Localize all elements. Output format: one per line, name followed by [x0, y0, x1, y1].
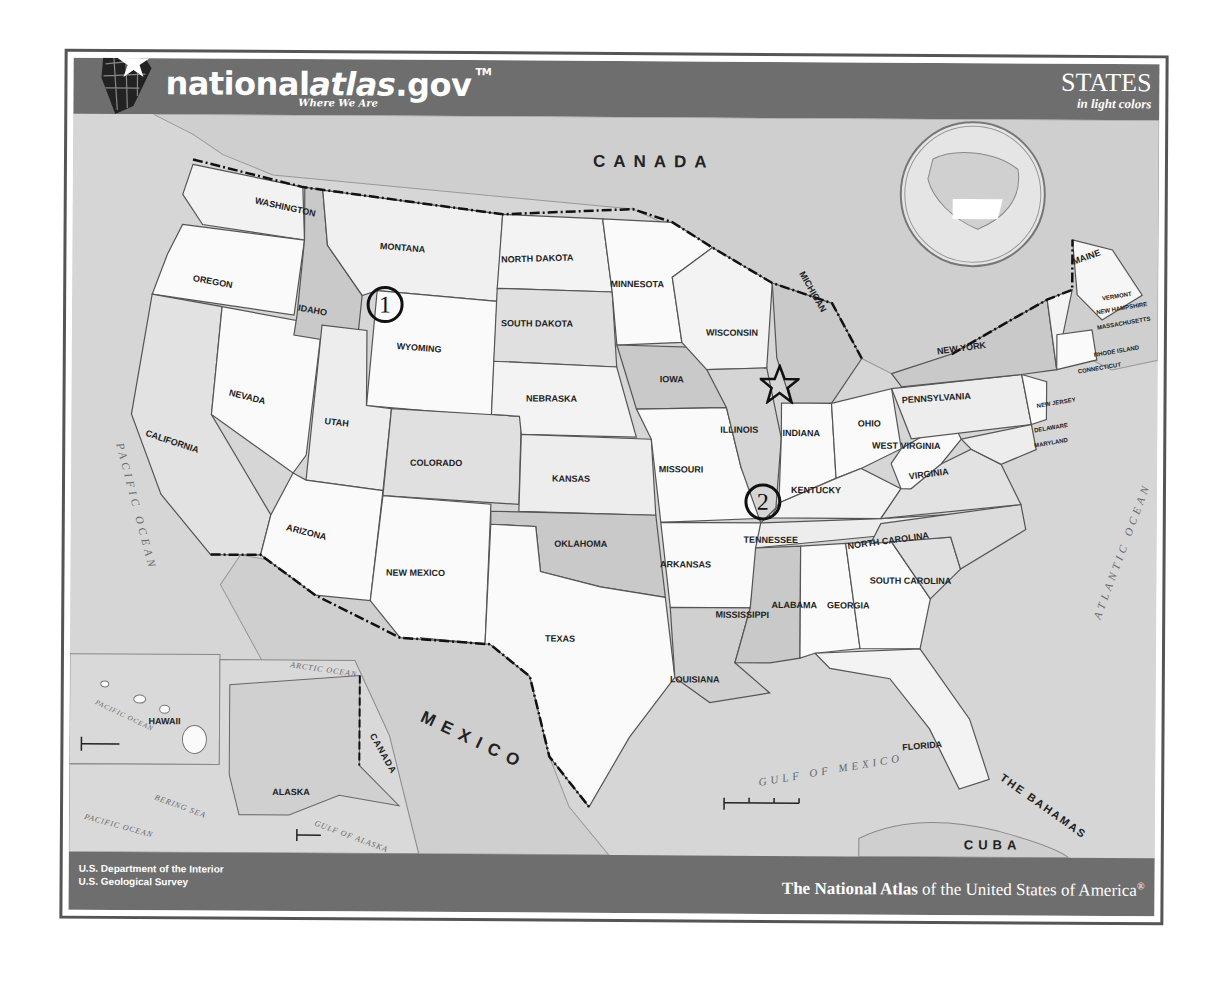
state-label-illinois: ILLINOIS	[720, 425, 758, 435]
atlas-title-bold: The National Atlas	[782, 879, 918, 899]
state-label-south-dakota: SOUTH DAKOTA	[501, 318, 573, 328]
atlas-logo-icon	[97, 58, 155, 116]
state-colorado	[383, 409, 522, 505]
svg-text:1: 1	[379, 292, 391, 318]
map-title: STATES	[1061, 70, 1152, 97]
tagline: Where We Are	[298, 97, 378, 108]
state-label-wisconsin: WISCONSIN	[706, 328, 758, 338]
state-label-texas: TEXAS	[545, 634, 575, 644]
canada-label: CANADA	[593, 152, 715, 172]
agency-line-2: U.S. Geological Survey	[79, 875, 224, 889]
agency-credit: U.S. Department of the Interior U.S. Geo…	[79, 862, 224, 889]
us-states-map: PACIFIC OCEAN ATLANTIC OCEAN GULF OF MEX…	[69, 114, 1159, 859]
registered-mark: ®	[1137, 880, 1145, 891]
numbered-marker-1: 1	[365, 284, 405, 328]
state-label-nebraska: NEBRASKA	[526, 393, 578, 403]
map-canvas: nationalatlas.govTM Where We Are STATES …	[68, 58, 1159, 917]
state-label-west-virginia: WEST VIRGINIA	[872, 441, 941, 451]
agency-line-1: U.S. Department of the Interior	[79, 862, 224, 876]
state-label-indiana: INDIANA	[783, 428, 821, 438]
header-bar: nationalatlas.govTM Where We Are STATES …	[73, 58, 1159, 121]
circle-marker-icon: 2	[743, 482, 783, 522]
state-label-new-mexico: NEW MEXICO	[386, 568, 445, 578]
state-label-kentucky: KENTUCKY	[791, 485, 841, 495]
star-marker	[759, 364, 799, 408]
atlas-title-rest: of the United States of America	[918, 880, 1137, 900]
state-label-tennessee: TENNESSEE	[743, 535, 798, 545]
state-label-louisiana: LOUISIANA	[670, 674, 720, 684]
trademark: TM	[475, 66, 491, 77]
logo-suffix: .gov	[395, 66, 471, 104]
numbered-marker-2: 2	[743, 482, 783, 526]
state-label-hawaii: HAWAII	[149, 716, 181, 726]
state-label-missouri: MISSOURI	[659, 464, 704, 474]
cuba-label: CUBA	[964, 837, 1022, 852]
star-icon	[760, 364, 800, 404]
state-label-alabama: ALABAMA	[772, 600, 818, 610]
state-label-iowa: IOWA	[660, 374, 685, 384]
state-label-ohio: OHIO	[858, 418, 881, 428]
state-label-kansas: KANSAS	[552, 474, 590, 484]
state-label-oklahoma: OKLAHOMA	[554, 539, 608, 549]
map-subtitle: in light colors	[1077, 96, 1152, 112]
state-label-alaska: ALASKA	[272, 787, 310, 797]
state-label-colorado: COLORADO	[410, 458, 463, 468]
state-label-mississippi: MISSISSIPPI	[715, 610, 769, 620]
state-label-arkansas: ARKANSAS	[660, 559, 711, 569]
atlas-title: The National Atlas of the United States …	[782, 878, 1145, 901]
state-label-georgia: GEORGIA	[827, 600, 870, 610]
state-label-north-dakota: NORTH DAKOTA	[501, 252, 574, 264]
svg-text:2: 2	[757, 489, 769, 515]
state-label-south-carolina: SOUTH CAROLINA	[870, 576, 952, 587]
footer-bar: U.S. Department of the Interior U.S. Geo…	[68, 852, 1154, 917]
logo-main: national	[165, 64, 309, 103]
circle-marker-icon: 1	[365, 284, 405, 324]
state-label-minnesota: MINNESOTA	[611, 279, 665, 289]
map-frame: nationalatlas.govTM Where We Are STATES …	[59, 49, 1168, 926]
